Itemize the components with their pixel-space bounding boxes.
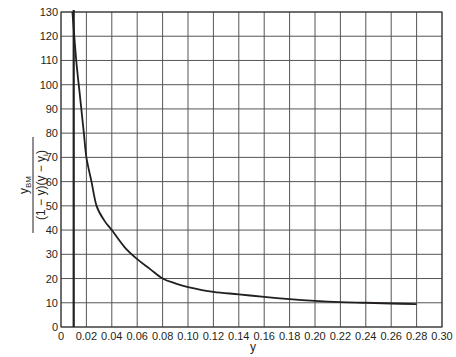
x-tick-label: 0.20 [304,330,325,342]
chart: 00.020.040.060.080.100.120.140.160.180.2… [0,0,456,357]
x-tick-label: 0.04 [101,330,122,342]
y-axis-label-numerator: yBM [17,176,33,194]
y-tick-label: 110 [40,54,58,66]
x-tick-label: 0.10 [177,330,198,342]
x-tick-label: 0.08 [152,330,173,342]
x-tick-label: 0.14 [228,330,249,342]
y-tick-label: 80 [46,127,58,139]
y-tick-label: 0 [52,321,58,333]
plot-frame [61,12,442,327]
y-tick-label: 10 [46,297,58,309]
x-tick-label: 0.24 [355,330,376,342]
data-curve [72,12,416,304]
x-tick-label: 0 [58,330,64,342]
y-tick-label: 40 [46,224,58,236]
y-tick-label: 20 [46,273,58,285]
x-tick-label: 0.30 [431,330,452,342]
grid-lines [61,12,442,327]
y-tick-label: 90 [46,103,58,115]
y-tick-label: 120 [40,30,58,42]
x-tick-label: 0.22 [330,330,351,342]
x-axis-label: y [250,340,256,354]
y-tick-label: 30 [46,248,58,260]
x-tick-label: 0.18 [279,330,300,342]
x-tick-label: 0.28 [406,330,427,342]
y-tick-label: 130 [40,6,58,18]
y-tick-label: 100 [40,79,58,91]
y-axis-label-denominator: (1 − y)(y − yi) [34,150,50,220]
y-axis-label: yBM (1 − y)(y − yi) [17,137,50,233]
x-tick-label: 0.16 [253,330,274,342]
x-tick-label: 0.06 [126,330,147,342]
x-tick-label: 0.12 [203,330,224,342]
x-tick-label: 0.26 [380,330,401,342]
x-tick-label: 0.02 [76,330,97,342]
plot-border [61,12,442,327]
